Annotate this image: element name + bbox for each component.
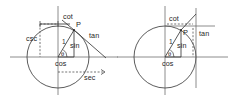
label-cot-left: cot — [63, 12, 73, 21]
label-sin-right: sin — [177, 41, 187, 50]
unit-circle-diagram-left: cot csc P tan 1 sin cos θ sec — [10, 6, 118, 95]
label-point-p-left: P — [76, 20, 81, 29]
label-theta-left: θ — [61, 50, 64, 57]
label-radius-one-left: 1 — [62, 38, 66, 45]
label-cot-right: cot — [169, 14, 179, 23]
figure-canvas: cot csc P tan 1 sin cos θ sec — [0, 0, 233, 97]
point-p-marker-right — [180, 29, 182, 31]
label-tan-right: tan — [199, 29, 209, 38]
label-tan-left: tan — [89, 31, 99, 40]
point-p-marker-left — [73, 29, 75, 31]
label-cos-left: cos — [55, 59, 67, 68]
label-radius-one-right: 1 — [169, 38, 173, 45]
unit-circle-diagram-right: cot P tan 1 sin cos θ — [117, 6, 228, 95]
trigonometry-figure: cot csc P tan 1 sin cos θ sec — [0, 0, 233, 97]
label-csc-left: csc — [26, 34, 37, 43]
label-cos-right: cos — [162, 59, 174, 68]
label-theta-right: θ — [168, 50, 171, 57]
ray-extension-upper-left — [62, 20, 74, 30]
label-sin-left: sin — [70, 41, 80, 50]
label-point-p-right: P — [183, 28, 188, 37]
label-sec-left: sec — [84, 73, 96, 82]
